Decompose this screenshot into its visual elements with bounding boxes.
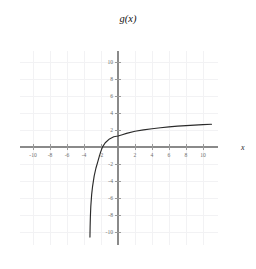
x-tick-label: 2 — [134, 152, 137, 158]
x-tick-label: 8 — [185, 152, 188, 158]
x-tick-label: -4 — [82, 152, 87, 158]
y-tick-label: 6 — [110, 93, 113, 99]
y-tick-label: -2 — [108, 161, 113, 167]
y-tick-label: -4 — [108, 178, 113, 184]
chart-figure: -10-8-6-4-2246810-10-8-6-4-2246810 g(x) … — [0, 0, 256, 269]
x-axis-label: x — [240, 143, 245, 152]
y-tick-label: -8 — [108, 212, 113, 218]
y-tick-label: 10 — [107, 59, 113, 65]
x-tick-label: 6 — [168, 152, 171, 158]
chart-title: g(x) — [120, 13, 137, 25]
x-tick-label: 4 — [151, 152, 154, 158]
y-tick-label: 8 — [110, 76, 113, 82]
y-tick-label: -10 — [106, 229, 114, 235]
x-tick-label: -6 — [65, 152, 70, 158]
x-tick-label: 10 — [200, 152, 206, 158]
x-tick-label: -10 — [29, 152, 37, 158]
y-tick-label: 4 — [110, 110, 113, 116]
chart-background — [0, 0, 256, 269]
plot-canvas: -10-8-6-4-2246810-10-8-6-4-2246810 g(x) … — [0, 0, 256, 269]
y-tick-label: -6 — [108, 195, 113, 201]
y-tick-label: 2 — [110, 127, 113, 133]
x-tick-label: -8 — [48, 152, 53, 158]
